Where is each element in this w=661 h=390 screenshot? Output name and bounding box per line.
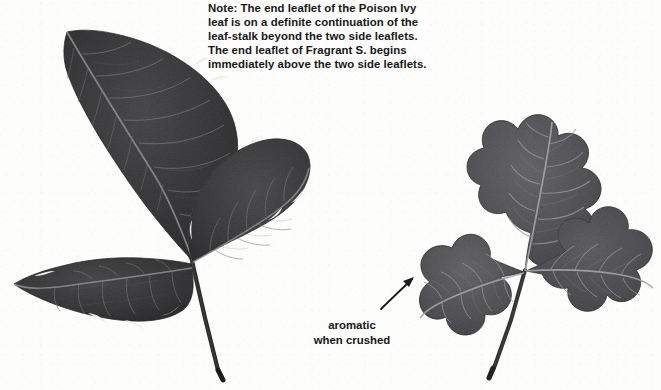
fragrant-sumac-drawing <box>414 52 661 390</box>
aromatic-caption: aromatic when crushed <box>294 318 410 347</box>
note-line-1: Note: The end leaflet of the Poison Ivy <box>208 2 481 16</box>
caption-line-1: aromatic <box>294 318 410 333</box>
note-line-5: immediately above the two side leaflets. <box>208 58 481 72</box>
note-line-4: The end leaflet of Fragrant S. begins <box>208 44 481 58</box>
specimen-poison-ivy <box>0 18 320 390</box>
caption-line-2: when crushed <box>294 333 410 348</box>
poison-ivy-stalk <box>192 261 223 380</box>
note-line-3: leaf-stalk beyond the two side leaflets. <box>208 30 481 44</box>
pointer-arrow-icon <box>372 268 428 320</box>
poison-ivy-left-side-leaflet <box>14 258 193 330</box>
fragrant-sumac-left-side-leaflet <box>419 234 524 335</box>
note-text-block: Note: The end leaflet of the Poison Ivy … <box>208 2 481 72</box>
specimen-fragrant-sumac <box>414 52 661 390</box>
note-line-2: leaf is on a definite continuation of th… <box>208 16 481 30</box>
poison-ivy-drawing <box>0 18 320 390</box>
scanned-figure-page: Note: The end leaflet of the Poison Ivy … <box>0 0 661 390</box>
